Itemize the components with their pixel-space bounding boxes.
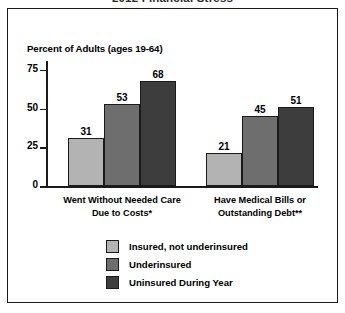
bar-value-label: 21 [218, 141, 229, 152]
y-axis-caption: Percent of Adults (ages 19-64) [27, 43, 163, 54]
legend-item: Insured, not underinsured [8, 237, 339, 255]
legend-label: Uninsured During Year [129, 277, 233, 288]
figure-frame: Percent of Adults (ages 19-64) 7550250 3… [7, 8, 338, 303]
bar: 51 [278, 107, 314, 186]
y-tick-label: 75 [27, 63, 38, 74]
category-label-line: Went Without Needed Care [50, 194, 194, 207]
bar-value-label: 53 [116, 92, 127, 103]
y-tick-mark [40, 70, 46, 72]
category-label-line: Have Medical Bills or [188, 194, 332, 207]
legend-swatch [106, 258, 119, 271]
bar: 53 [104, 104, 140, 186]
bar: 21 [206, 153, 242, 186]
y-tick-label: 25 [27, 140, 38, 151]
legend-swatch [106, 240, 119, 253]
bar: 68 [140, 81, 176, 186]
category-label: Have Medical Bills orOutstanding Debt** [188, 194, 332, 219]
chart-title-clipped: 2012 Financial Stress [0, 0, 345, 7]
category-label-line: Due to Costs* [50, 207, 194, 220]
legend-label: Underinsured [129, 259, 191, 270]
bar: 45 [242, 116, 278, 186]
x-axis-line [46, 186, 318, 188]
bar-value-label: 45 [254, 104, 265, 115]
bar-value-label: 68 [152, 69, 163, 80]
bar-value-label: 31 [80, 126, 91, 137]
category-label: Went Without Needed CareDue to Costs* [50, 194, 194, 219]
legend-label: Insured, not underinsured [129, 241, 248, 252]
bar-value-label: 51 [290, 95, 301, 106]
y-tick-mark [40, 109, 46, 111]
legend-swatch [106, 276, 119, 289]
legend-item: Underinsured [8, 255, 339, 273]
y-tick-label: 0 [32, 179, 38, 190]
y-tick-mark [40, 186, 46, 188]
chart-title: 2012 Financial Stress [0, 0, 345, 4]
legend-item: Uninsured During Year [8, 273, 339, 291]
y-tick-label: 50 [27, 102, 38, 113]
y-axis-line [46, 61, 48, 187]
category-label-line: Outstanding Debt** [188, 207, 332, 220]
bar: 31 [68, 138, 104, 186]
chart-legend: Insured, not underinsuredUnderinsuredUni… [8, 237, 339, 291]
y-tick-mark [40, 147, 46, 149]
plot-area: 7550250 315368214551 Went Without Needed… [46, 62, 318, 186]
